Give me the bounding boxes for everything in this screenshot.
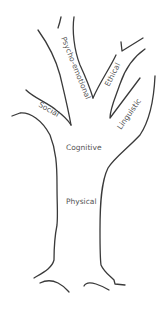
tree-labels: Psycho-emotional Ethical Social Linguist… <box>37 35 143 206</box>
tree-outline <box>12 17 155 292</box>
root-right <box>84 283 109 290</box>
label-linguistic: Linguistic <box>115 97 143 131</box>
tree-diagram: Psycho-emotional Ethical Social Linguist… <box>0 0 163 312</box>
label-cognitive: Cognitive <box>66 143 102 152</box>
label-physical: Physical <box>66 197 97 206</box>
branch-top-right-v <box>121 38 143 51</box>
trunk-left <box>12 113 57 278</box>
branch-top-stub <box>58 17 61 28</box>
root-left <box>40 281 69 292</box>
label-social: Social <box>37 100 61 119</box>
